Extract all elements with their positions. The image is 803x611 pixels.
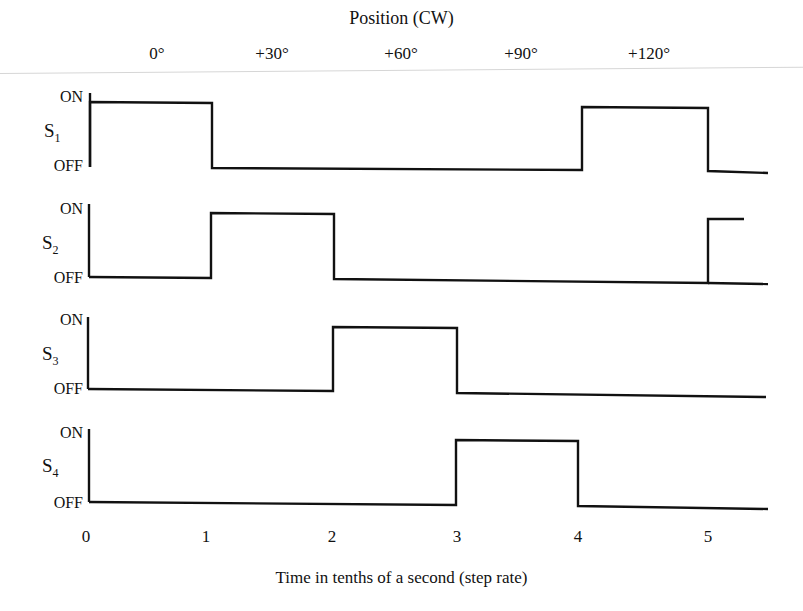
x-tick-4: 4 <box>574 527 583 547</box>
s1-waveform <box>90 93 768 173</box>
s3-waveform <box>88 317 766 397</box>
x-tick-5: 5 <box>704 527 713 547</box>
x-axis-label: Time in tenths of a second (step rate) <box>0 568 803 588</box>
timing-diagram-plot <box>0 0 803 611</box>
x-tick-3: 3 <box>453 527 462 547</box>
s4-waveform <box>89 429 768 509</box>
x-tick-2: 2 <box>328 527 337 547</box>
x-tick-1: 1 <box>202 527 211 547</box>
s2-waveform <box>89 204 768 284</box>
x-tick-0: 0 <box>82 527 91 547</box>
